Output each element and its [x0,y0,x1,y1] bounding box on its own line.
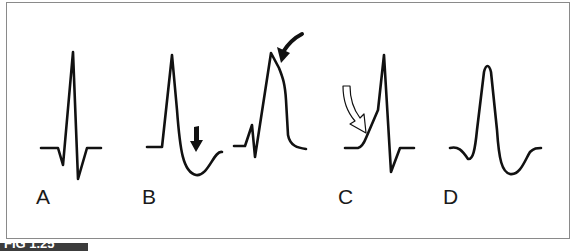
down-arrow-icon [190,126,203,152]
figure-caption: FIG 1.25 [4,243,55,251]
waveform-d [450,66,541,174]
hollow-arrow-icon [343,86,366,133]
waveform-b2 [234,53,306,157]
panel-label-d: D [443,186,458,207]
panel-label-c: C [338,186,353,207]
panel-label-b: B [142,186,156,207]
waveform-a [41,52,101,179]
panel-label-a: A [36,186,50,207]
curved-arrow-icon [277,34,302,63]
figure-caption-bar: FIG 1.25 [0,243,88,251]
waveform-b1 [147,55,222,175]
